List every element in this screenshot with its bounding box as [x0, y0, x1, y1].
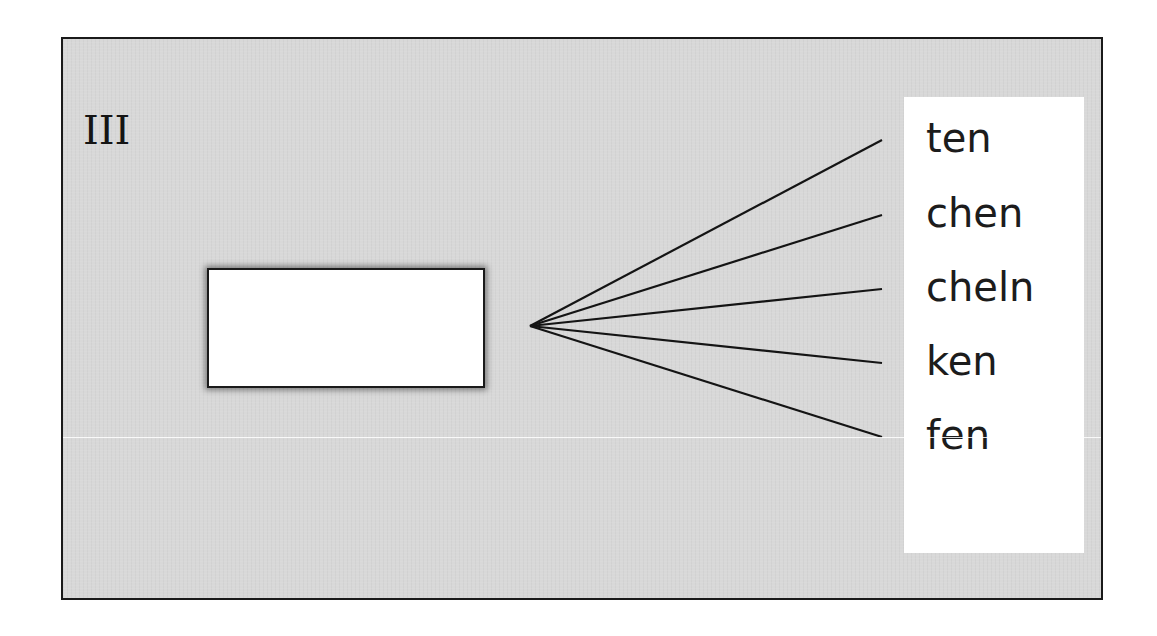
- connector-line-ten: [530, 140, 882, 326]
- scan-artifact-line: [63, 437, 1101, 438]
- connector-lines: [0, 0, 1157, 636]
- option-fen: fen: [926, 415, 990, 455]
- option-ken: ken: [926, 341, 998, 381]
- option-chen: chen: [926, 193, 1023, 233]
- option-ten: ten: [926, 118, 992, 158]
- connector-line-cheln: [530, 289, 882, 326]
- connector-line-fen: [530, 326, 882, 437]
- connector-line-chen: [530, 215, 882, 326]
- option-cheln: cheln: [926, 267, 1034, 307]
- connector-line-ken: [530, 326, 882, 363]
